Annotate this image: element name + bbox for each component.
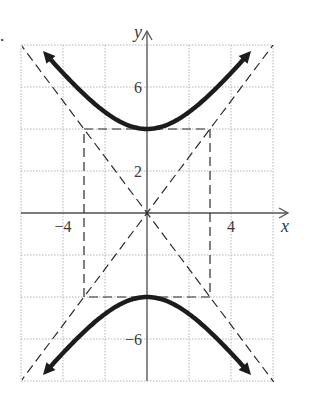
hyperbola-graph: −4462−6xy: [0, 0, 311, 397]
axes: [21, 31, 288, 381]
y-tick-label: 2: [134, 163, 142, 180]
x-tick-label: 4: [227, 218, 235, 235]
y-tick-label: 6: [134, 79, 142, 96]
y-tick-label: −6: [125, 331, 142, 348]
y-axis-label: y: [132, 22, 142, 42]
axis-labels: −4462−6xy: [54, 22, 289, 348]
x-axis-label: x: [280, 216, 289, 236]
x-tick-label: −4: [54, 218, 71, 235]
